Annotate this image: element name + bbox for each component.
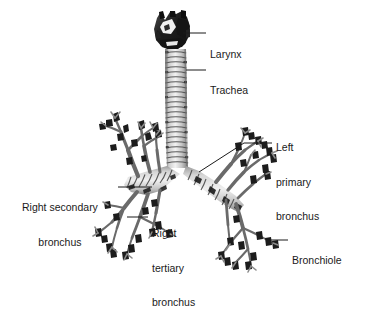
right-secondary-bronchus-label: Right secondary bronchus — [22, 179, 98, 260]
left-primary-bronchus-label-line-2: bronchus — [276, 211, 319, 223]
trachea-structure — [165, 49, 188, 168]
right-tertiary-bronchus-label-line-0: Right — [152, 228, 195, 240]
left-primary-bronchus-label: Left primary bronchus — [276, 119, 319, 234]
left-primary-bronchus-label-line-0: Left — [276, 142, 319, 154]
bronchiole-label-line-0: Bronchiole — [292, 255, 342, 267]
trachea-label-line-0: Trachea — [210, 85, 248, 97]
bronchiole-label: Bronchiole — [292, 232, 342, 278]
left-primary-bronchus-label-line-1: primary — [276, 177, 319, 189]
larynx-label-line-0: Larynx — [210, 49, 242, 61]
right-secondary-bronchus-label-line-0: Right secondary — [22, 202, 98, 214]
right-tertiary-bronchus-label: Right tertiary bronchus — [152, 205, 195, 310]
trachea-label: Trachea — [210, 62, 248, 108]
right-secondary-bronchus-label-line-1: bronchus — [22, 237, 98, 249]
right-tertiary-bronchus-label-line-1: tertiary — [152, 263, 195, 275]
right-tertiary-bronchus-label-line-2: bronchus — [152, 297, 195, 309]
